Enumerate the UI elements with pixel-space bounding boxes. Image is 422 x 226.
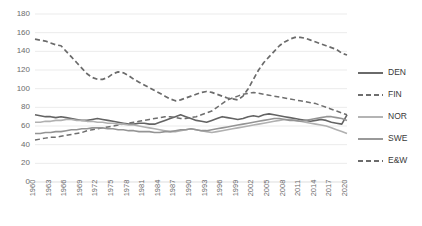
y-axis-tick-label: 40	[21, 140, 30, 149]
x-axis-tick-label: 2017	[324, 180, 333, 197]
legend-label-den: DEN	[388, 67, 406, 77]
y-axis-tick-label: 80	[21, 102, 30, 111]
y-axis-tick-label: 60	[21, 121, 30, 130]
chart-legend: DENFINNORSWEE&W	[358, 67, 408, 165]
grid-lines: 020406080100120140160180	[17, 9, 347, 186]
x-axis-tick-label: 1960	[28, 180, 37, 197]
legend-label-fin: FIN	[388, 89, 402, 99]
x-axis-tick-label: 1987	[168, 180, 177, 197]
series-line-fin	[35, 92, 347, 140]
y-axis-tick-label: 100	[17, 84, 31, 93]
x-axis-tick-label: 1975	[106, 180, 115, 197]
x-axis-tick-label: 1984	[153, 180, 162, 197]
x-axis-tick-label: 1993	[200, 180, 209, 197]
x-axis-tick-label: 2008	[278, 180, 287, 197]
x-axis-tick-label: 1990	[184, 180, 193, 197]
legend-label-swe: SWE	[388, 133, 408, 143]
x-axis-tick-label: 1969	[75, 180, 84, 197]
legend-label-ew: E&W	[388, 155, 407, 165]
series-line-ew	[35, 37, 347, 100]
series-line-den	[35, 114, 347, 124]
y-axis-tick-label: 160	[17, 28, 31, 37]
x-axis-tick-label: 1999	[231, 180, 240, 197]
x-axis-tick-label: 2014	[309, 180, 318, 197]
x-axis-tick-label: 1996	[215, 180, 224, 197]
x-axis-tick-label: 1963	[44, 180, 53, 197]
x-axis-tick-label: 2011	[293, 180, 302, 196]
chart-container: 0204060801001201401601801960196319661969…	[0, 0, 422, 226]
y-axis-tick-label: 20	[21, 158, 30, 167]
x-axis-tick-label: 2020	[340, 180, 349, 197]
y-axis-tick-label: 120	[17, 65, 31, 74]
line-chart: 0204060801001201401601801960196319661969…	[0, 0, 422, 226]
x-axis-tick-label: 2002	[246, 180, 255, 197]
y-axis-tick-label: 180	[17, 9, 31, 18]
x-axis-labels: 1960196319661969197219751978198119841987…	[28, 180, 349, 197]
x-axis-tick-label: 1972	[90, 180, 99, 197]
x-axis-tick-label: 2005	[262, 180, 271, 197]
x-axis-tick-label: 1978	[122, 180, 131, 197]
x-axis-tick-label: 1966	[59, 180, 68, 197]
x-axis-tick-label: 1981	[137, 180, 146, 197]
legend-label-nor: NOR	[388, 111, 407, 121]
y-axis-tick-label: 140	[17, 46, 31, 55]
